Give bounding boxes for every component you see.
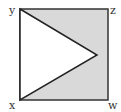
square-diagram: y z x w xyxy=(0,0,121,112)
vertex-label-w: w xyxy=(108,99,118,112)
vertex-label-y: y xyxy=(8,4,16,17)
vertex-label-z: z xyxy=(110,4,116,17)
vertex-label-x: x xyxy=(9,99,16,112)
